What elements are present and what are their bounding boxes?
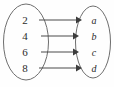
codomain-item-4: d [92,63,98,74]
domain-item-3: 6 [22,46,28,58]
arrow-4-to-b [41,33,79,40]
mapping-diagram: 2 4 6 8 a b c d [0,0,114,87]
arrow-6-to-c [41,49,79,56]
domain-item-2: 4 [22,30,28,42]
codomain-item-1: a [92,15,97,26]
domain-item-1: 2 [22,14,28,26]
codomain-item-2: b [92,31,97,42]
arrow-8-to-d [39,65,82,72]
domain-item-4: 8 [22,62,28,74]
codomain-item-3: c [92,47,97,58]
